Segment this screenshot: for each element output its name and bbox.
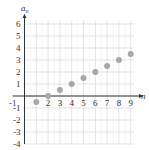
y-tick-label: 5 bbox=[16, 31, 21, 41]
y-tick-label: 1 bbox=[16, 79, 21, 89]
y-tick-label: -1 bbox=[13, 103, 21, 113]
data-point bbox=[104, 63, 110, 69]
x-axis-label: n bbox=[141, 91, 146, 101]
y-tick-label: -3 bbox=[13, 127, 21, 137]
y-tick-label: 4 bbox=[16, 43, 21, 53]
data-point bbox=[81, 75, 87, 81]
grid-lines bbox=[25, 20, 135, 144]
data-point bbox=[69, 81, 75, 87]
x-tick-label: 4 bbox=[69, 98, 74, 108]
scatter-chart: -123456789654321-1-2-3-4 n an bbox=[0, 0, 149, 150]
x-tick-label: 6 bbox=[93, 98, 98, 108]
data-point bbox=[33, 99, 39, 105]
data-point bbox=[57, 87, 63, 93]
data-point bbox=[116, 57, 122, 63]
y-axis-label: an bbox=[21, 3, 29, 14]
x-tick-label: 2 bbox=[46, 98, 51, 108]
data-point bbox=[128, 51, 134, 57]
y-tick-label: 3 bbox=[16, 55, 21, 65]
y-tick-label: -4 bbox=[13, 139, 21, 149]
x-tick-label: 9 bbox=[128, 98, 133, 108]
data-point bbox=[92, 69, 98, 75]
y-tick-label: 2 bbox=[16, 67, 21, 77]
x-tick-label: 7 bbox=[105, 98, 110, 108]
x-tick-label: 5 bbox=[81, 98, 86, 108]
x-tick-label: 3 bbox=[58, 98, 63, 108]
y-tick-label: 6 bbox=[16, 19, 21, 29]
y-tick-label: -2 bbox=[13, 115, 21, 125]
axes bbox=[13, 14, 144, 144]
data-point bbox=[45, 93, 51, 99]
x-tick-label: 8 bbox=[117, 98, 122, 108]
